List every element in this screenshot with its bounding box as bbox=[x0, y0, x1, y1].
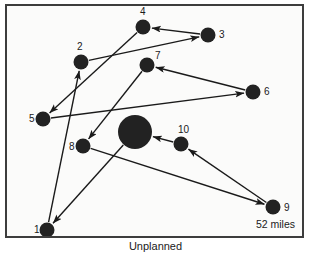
stop-node-1[interactable] bbox=[40, 223, 55, 237]
route-plot-frame: 12345678910 52 miles bbox=[5, 4, 304, 238]
stop-node-6[interactable] bbox=[246, 85, 261, 100]
route-figure: 12345678910 52 miles Unplanned bbox=[0, 0, 311, 265]
route-edge-3-to-4 bbox=[152, 28, 200, 34]
stop-label-9: 9 bbox=[284, 203, 290, 213]
stop-label-8: 8 bbox=[69, 142, 75, 152]
depot-node[interactable] bbox=[118, 115, 152, 149]
stop-node-2[interactable] bbox=[74, 55, 89, 70]
route-edge-2-to-3 bbox=[89, 37, 199, 60]
stop-node-4[interactable] bbox=[136, 20, 151, 35]
route-edge-4-to-5 bbox=[50, 32, 137, 112]
stop-label-7: 7 bbox=[155, 51, 161, 61]
stop-label-6: 6 bbox=[264, 87, 270, 97]
route-edge-10-to-depot bbox=[153, 137, 173, 142]
stop-label-4: 4 bbox=[140, 7, 146, 17]
route-edge-9-to-10 bbox=[188, 149, 266, 202]
stop-node-3[interactable] bbox=[201, 28, 216, 43]
route-edge-depot-to-1 bbox=[53, 145, 123, 223]
stop-node-10[interactable] bbox=[174, 137, 189, 152]
stop-label-1: 1 bbox=[34, 225, 40, 235]
route-diagram-svg bbox=[7, 6, 302, 236]
stop-label-3: 3 bbox=[219, 30, 225, 40]
stop-label-5: 5 bbox=[29, 114, 35, 124]
stop-label-2: 2 bbox=[77, 42, 83, 52]
figure-caption: Unplanned bbox=[0, 240, 311, 252]
stop-node-9[interactable] bbox=[266, 200, 281, 215]
stop-node-5[interactable] bbox=[36, 112, 51, 127]
stop-node-8[interactable] bbox=[76, 139, 91, 154]
stop-node-7[interactable] bbox=[140, 58, 155, 73]
total-distance-label: 52 miles bbox=[256, 218, 295, 230]
route-edge-6-to-7 bbox=[156, 67, 246, 90]
route-edge-8-to-9 bbox=[91, 148, 265, 204]
stop-label-10: 10 bbox=[178, 125, 189, 135]
route-edge-5-to-6 bbox=[51, 93, 244, 118]
